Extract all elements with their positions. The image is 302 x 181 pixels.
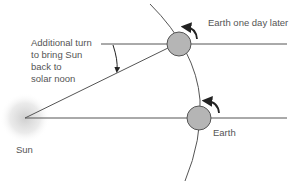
additional-turn-label: Additional turn to bring Sun back to sol…	[31, 37, 92, 85]
earth-one-day-later	[167, 32, 191, 56]
label-line-4: solar noon	[31, 73, 92, 85]
sun-label: Sun	[16, 144, 33, 156]
additional-turn-arc-icon	[113, 45, 117, 70]
label-line-3: back to	[31, 61, 92, 73]
label-line-1: Additional turn	[31, 37, 92, 49]
earth-label: Earth	[213, 127, 236, 139]
earth	[187, 106, 211, 130]
label-line-2: to bring Sun	[31, 49, 92, 61]
earth-one-day-later-label: Earth one day later	[208, 17, 288, 29]
